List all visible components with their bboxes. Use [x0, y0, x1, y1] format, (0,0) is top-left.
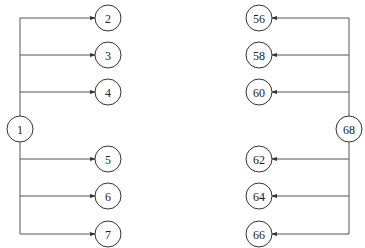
node-4: 4: [95, 79, 121, 105]
node-60: 60: [246, 79, 272, 105]
node-label: 2: [105, 12, 111, 26]
node-label: 68: [343, 123, 355, 137]
node-68: 68: [336, 116, 362, 142]
node-label: 4: [105, 86, 111, 100]
node-66: 66: [246, 221, 272, 247]
node-label: 6: [105, 190, 111, 204]
node-label: 66: [253, 228, 265, 242]
node-label: 3: [105, 49, 111, 63]
node-1: 1: [7, 116, 33, 142]
node-label: 56: [253, 12, 265, 26]
node-label: 5: [105, 153, 111, 167]
node-7: 7: [95, 221, 121, 247]
node-6: 6: [95, 183, 121, 209]
node-56: 56: [246, 5, 272, 31]
node-64: 64: [246, 183, 272, 209]
node-3: 3: [95, 42, 121, 68]
node-62: 62: [246, 146, 272, 172]
node-label: 60: [253, 86, 265, 100]
node-label: 58: [253, 49, 265, 63]
node-58: 58: [246, 42, 272, 68]
node-label: 1: [17, 123, 23, 137]
tree-diagram: 234567156586062646668: [0, 0, 365, 248]
node-label: 62: [253, 153, 265, 167]
node-label: 7: [105, 228, 111, 242]
node-2: 2: [95, 5, 121, 31]
node-label: 64: [253, 190, 265, 204]
node-5: 5: [95, 146, 121, 172]
